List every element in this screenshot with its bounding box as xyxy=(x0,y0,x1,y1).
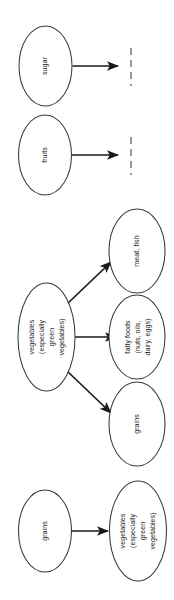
edge-vegetables-to-grains xyxy=(66,370,111,413)
svg-text:vegetables): vegetables) xyxy=(149,512,157,549)
svg-text:fatty foods: fatty foods xyxy=(124,320,132,354)
svg-text:dairy, eggs): dairy, eggs) xyxy=(144,318,152,355)
svg-text:(nuts, oils,: (nuts, oils, xyxy=(134,321,142,354)
food-relations-diagram: sugar fruits vegetables (especially gree… xyxy=(0,0,174,600)
node-vegetables-source[interactable] xyxy=(18,283,75,391)
node-meat-fish-label: meat, fish xyxy=(133,235,141,266)
svg-text:vegetables): vegetables) xyxy=(58,318,66,355)
node-grains-source-label: grains xyxy=(41,521,49,541)
group-sugar: sugar xyxy=(19,26,131,106)
diagram-canvas: sugar fruits vegetables (especially gree… xyxy=(0,0,174,600)
svg-text:(especially: (especially xyxy=(129,514,137,548)
svg-text:green: green xyxy=(139,522,147,540)
group-fruits: fruits xyxy=(19,115,132,195)
node-fruits-label: fruits xyxy=(41,147,49,163)
node-vegetables-target[interactable] xyxy=(110,481,167,581)
node-grains-target-label: grains xyxy=(133,414,141,434)
edge-vegetables-to-meat-fish xyxy=(66,262,111,305)
node-sugar-label: sugar xyxy=(41,56,49,75)
group-grains: grains vegetables (especially green vege… xyxy=(19,481,167,581)
svg-text:vegetables: vegetables xyxy=(28,319,36,354)
group-vegetables: vegetables (especially green vegetables)… xyxy=(18,209,165,466)
svg-text:vegetables: vegetables xyxy=(119,513,127,548)
node-fatty-foods-label: fatty foods (nuts, oils, dairy, eggs) xyxy=(124,318,152,355)
svg-text:(especially: (especially xyxy=(38,320,46,354)
svg-text:green: green xyxy=(48,328,56,346)
